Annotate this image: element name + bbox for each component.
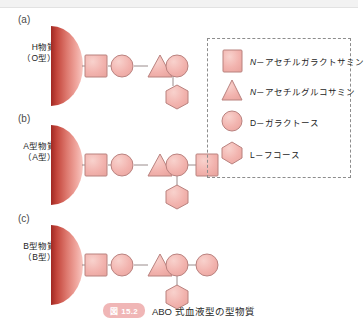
panel-a-graphic bbox=[51, 26, 188, 109]
legend-item-galnac: N－アセチルガラクトサミン bbox=[250, 55, 364, 67]
glycan-circle-b-1 bbox=[111, 154, 133, 176]
glycan-circle-a-1 bbox=[111, 55, 133, 77]
legend-label-galactose: D－ガラクトース bbox=[250, 116, 319, 128]
glycan-square-c-0 bbox=[85, 254, 107, 276]
legend-label-glcnac: N－アセチルグルコサミン bbox=[250, 85, 355, 97]
legend-label-fucose: L－フコース bbox=[250, 148, 300, 160]
figure-caption: 図 15.2 ABO 式血液型の型物質 bbox=[0, 303, 358, 318]
panel-c-graphic bbox=[51, 225, 218, 309]
membrane-semicircle-a bbox=[51, 26, 83, 106]
glycan-square-a-0 bbox=[85, 55, 107, 77]
figure-number-badge: 図 15.2 bbox=[103, 303, 145, 318]
legend-label-galnac: N－アセチルガラクトサミン bbox=[250, 55, 364, 67]
glycan-circle-b-3 bbox=[166, 154, 188, 176]
glycan-hexagon-b-branch bbox=[166, 185, 188, 209]
glycan-hexagon-a-branch bbox=[166, 85, 188, 109]
glycan-circle-c-1 bbox=[111, 254, 133, 276]
legend-item-galactose: D－ガラクトース bbox=[250, 116, 319, 128]
legend-name-glcnac: －アセチルグルコサミン bbox=[256, 87, 355, 97]
glycan-circle-c-terminal bbox=[196, 254, 218, 276]
membrane-semicircle-b bbox=[51, 125, 83, 205]
glycan-square-b-0 bbox=[85, 154, 107, 176]
legend-item-glcnac: N－アセチルグルコサミン bbox=[250, 85, 355, 97]
membrane-semicircle-c bbox=[51, 225, 83, 305]
legend-name-fucose: －フコース bbox=[255, 150, 300, 160]
figure-caption-text: ABO 式血液型の型物質 bbox=[152, 304, 255, 318]
glycan-circle-a-3 bbox=[166, 55, 188, 77]
legend-name-galnac: －アセチルガラクトサミン bbox=[256, 57, 364, 67]
legend-item-fucose: L－フコース bbox=[250, 148, 300, 160]
legend-name-galactose: －ガラクトース bbox=[256, 118, 319, 128]
glycan-circle-c-3 bbox=[166, 254, 188, 276]
panel-b-graphic bbox=[51, 125, 218, 209]
